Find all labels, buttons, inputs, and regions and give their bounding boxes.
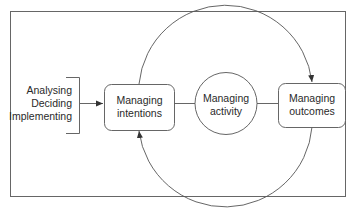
input-label-implementing: Implementing: [0, 110, 72, 123]
input-label-deciding: Deciding: [0, 97, 72, 110]
node-activity-line1: Managing: [195, 92, 257, 105]
node-activity-label: Managing activity: [195, 92, 257, 117]
node-activity-line2: activity: [195, 105, 257, 118]
bottom-arc-arrow: [139, 127, 312, 207]
node-outcomes-line1: Managing: [278, 92, 346, 105]
node-intentions-label: Managing intentions: [104, 94, 175, 119]
node-intentions-line1: Managing: [104, 94, 175, 107]
input-label-analysing: Analysing: [0, 84, 72, 97]
node-outcomes-line2: outcomes: [278, 105, 346, 118]
node-outcomes-label: Managing outcomes: [278, 92, 346, 117]
node-intentions-line2: intentions: [104, 107, 175, 120]
